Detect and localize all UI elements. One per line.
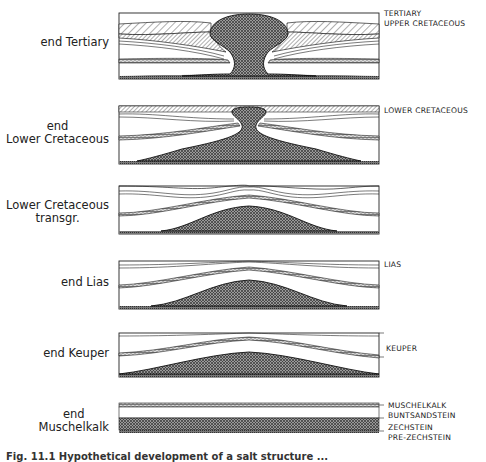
stage-label-line: end Keuper [43,347,109,360]
unit-label-tertiary: TERTIARY [384,9,421,18]
cross-section-lower-cretaceous-transgr [116,180,380,238]
cross-section-end-keuper [116,330,380,380]
stage-label-line: end Tertiary [41,36,109,49]
unit-label-pre-zechstein: PRE-ZECHSTEIN [388,433,451,442]
cross-section-end-lias [116,258,380,312]
stage-label-line: end Lias [61,276,109,289]
stage-label-lower-cretaceous-transgr: Lower Cretaceous transgr. [6,199,109,225]
unit-label-upper-cretaceous: UPPER CRETACEOUS [384,19,465,28]
stage-label-end-keuper: end Keuper [43,347,109,360]
stage-label-end-lower-cretaceous: end Lower Cretaceous [6,120,109,146]
stage-label-line: Muschelkalk [39,421,109,434]
stage-label-line: transgr. [6,212,109,225]
cross-section-end-lower-cretaceous [116,103,380,167]
cross-section-end-muschelkalk [116,400,380,440]
stage-label-end-muschelkalk: end Muschelkalk [39,408,109,434]
cross-section-end-tertiary [116,10,380,82]
unit-label-lias: LIAS [384,260,401,269]
unit-label-keuper: KEUPER [386,344,417,353]
unit-label-muschelkalk: MUSCHELKALK [388,401,446,410]
stage-label-line: Lower Cretaceous [6,133,109,146]
unit-label-lower-cretaceous: LOWER CRETACEOUS [384,106,468,115]
stage-label-end-tertiary: end Tertiary [41,36,109,49]
unit-label-buntsandstein: BUNTSANDSTEIN [388,411,456,420]
unit-label-zechstein: ZECHSTEIN [388,423,433,432]
figure-caption: Fig. 11.1 Hypothetical development of a … [6,451,328,462]
stage-label-end-lias: end Lias [61,276,109,289]
